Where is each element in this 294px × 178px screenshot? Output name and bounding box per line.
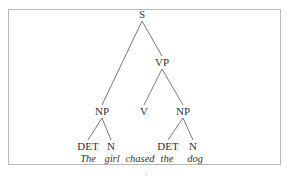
- word-the-2: the: [161, 153, 174, 164]
- edge-S-VP: [142, 21, 162, 56]
- edge-S-NP1: [102, 21, 142, 105]
- edge-NP2-DET2: [168, 118, 183, 140]
- edge-NP1-DET1: [88, 118, 102, 140]
- node-NP-subject: NP: [95, 105, 109, 117]
- node-V: V: [140, 105, 148, 117]
- edge-NP1-N1: [102, 118, 111, 140]
- node-NP-object: NP: [176, 105, 190, 117]
- syntax-tree: S VP NP V NP DET N DET N The girl chased…: [0, 0, 294, 178]
- word-chased: chased: [125, 153, 155, 164]
- word-dog: dog: [187, 153, 203, 164]
- node-N-subject: N: [107, 140, 115, 152]
- node-S: S: [139, 8, 145, 20]
- edge-VP-NP2: [162, 69, 183, 105]
- node-DET-object: DET: [157, 140, 179, 152]
- edge-VP-V: [144, 69, 162, 105]
- node-VP: VP: [155, 56, 169, 68]
- word-the-1: The: [80, 153, 96, 164]
- stray-mark: [146, 175, 147, 176]
- edge-NP2-N2: [183, 118, 193, 140]
- node-N-object: N: [189, 140, 197, 152]
- node-DET-subject: DET: [77, 140, 99, 152]
- word-girl: girl: [104, 153, 119, 164]
